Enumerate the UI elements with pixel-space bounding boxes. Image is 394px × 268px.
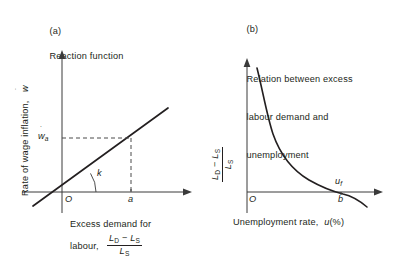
economics-figure: (a) Reaction function Rate of wage infla…: [0, 0, 394, 268]
panel-b-den-L: L: [223, 164, 233, 169]
panel-a-num-sub-S: S: [135, 237, 140, 244]
panel-b-num-minus: −: [210, 159, 220, 170]
panel-a-y-axis-label-text: Rate of wage inflation,: [20, 100, 30, 196]
panel-b-y-axis-arrowhead: [244, 58, 251, 67]
panel-b-y-axis-label: LD − LS LS: [211, 147, 234, 182]
panel-b-fraction-numerator: LD − LS: [211, 147, 223, 182]
panel-a-x-axis-caption: Excess demand for labour, LD − LS LS: [70, 218, 151, 257]
panel-b-x-caption-text: Unemployment rate,: [233, 217, 318, 227]
panel-b-excess-demand-unemployment: (b) Relation between excess labour deman…: [197, 0, 394, 268]
panel-b-num-sub-S: S: [214, 149, 221, 154]
panel-a-slope-angle-arc: [91, 173, 97, 192]
panel-b-x-axis-arrowhead: [374, 189, 383, 196]
panel-a-y-axis-label: Rate of wage inflation, ˙ w: [20, 85, 30, 196]
panel-a-x-axis-arrowhead: [183, 189, 192, 196]
panel-a-y-point-label: ˙ w a: [38, 131, 48, 142]
panel-a-y-point-variable: ˙ w: [38, 131, 45, 141]
panel-a-excess-demand-fraction: LD − LS LS: [107, 234, 142, 257]
panel-b-num-L1: L: [210, 175, 220, 180]
panel-b-crossing-subscript: f: [340, 180, 342, 187]
panel-b-fraction-denominator: LS: [223, 147, 234, 182]
panel-b-excess-demand-curve: [257, 68, 367, 207]
panel-a-fraction-numerator: LD − LS: [107, 234, 142, 246]
panel-a-fraction-denominator: LS: [107, 246, 142, 257]
panel-b-crossing-curve-label: uf: [335, 176, 342, 187]
panel-a-reaction-line: [33, 108, 168, 206]
panel-b-x-axis-caption: Unemployment rate, u(%): [233, 216, 344, 229]
panel-a-origin-label: O: [65, 194, 72, 204]
panel-b-x-caption-units: (%): [329, 217, 344, 227]
panel-a-x-caption-line2: labour,: [70, 241, 99, 251]
panel-a-x-caption-line2-row: labour, LD − LS LS: [70, 234, 151, 257]
panel-a-num-minus: −: [119, 233, 130, 243]
panel-b-num-sub-D: D: [214, 170, 221, 175]
panel-b-num-L2: L: [210, 153, 220, 158]
panel-a-reaction-function: (a) Reaction function Rate of wage infla…: [0, 0, 197, 268]
panel-a-x-point-label: a: [128, 194, 133, 204]
panel-a-y-axis-variable: ˙ w: [20, 85, 30, 92]
panel-b-origin-label: O: [249, 194, 256, 204]
panel-a-slope-angle-label: k: [97, 168, 102, 178]
panel-b-den-sub-S: S: [226, 159, 233, 164]
panel-b-x-point-label: b: [338, 194, 343, 204]
panel-a-den-sub-S: S: [125, 249, 130, 256]
panel-a-y-axis-arrowhead: [59, 50, 66, 59]
panel-b-excess-demand-fraction: LD − LS LS: [211, 147, 234, 182]
w-dot-accent-icon: ˙: [40, 126, 43, 134]
panel-a-y-point-subscript: a: [45, 135, 49, 142]
panel-a-x-caption-line1: Excess demand for: [70, 218, 151, 231]
w-dot-accent-icon: ˙: [15, 87, 23, 90]
